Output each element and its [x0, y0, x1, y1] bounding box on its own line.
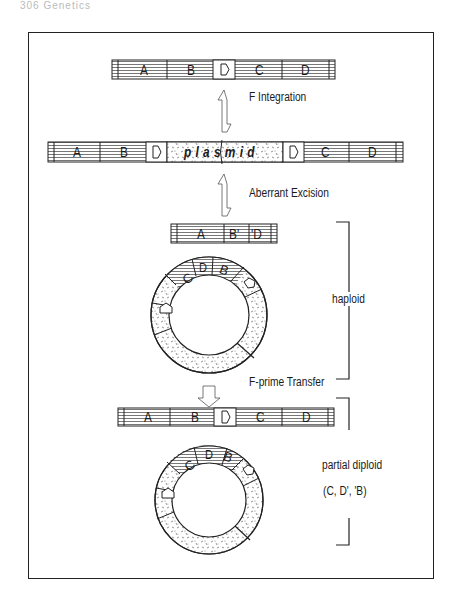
segment-label-a: A — [144, 409, 152, 425]
segment-label-a: A — [197, 226, 205, 242]
segment-label-c: C — [321, 144, 330, 160]
segment-label-c: C — [255, 62, 264, 78]
ring-label-d: D — [199, 260, 207, 275]
segment-label-b: B — [187, 62, 195, 78]
segment-label-c: C — [256, 409, 265, 425]
step-label-transfer: F-prime Transfer — [249, 375, 324, 389]
state-label-partial-diploid: partial diploid — [322, 458, 382, 472]
segment-label-b: B — [191, 409, 199, 425]
plasmid-label: plasmid — [184, 144, 259, 160]
segment-label-d: D — [301, 62, 310, 78]
segment-label-a: A — [73, 144, 81, 160]
ring-label-d: D — [205, 447, 213, 462]
conjugation-diagram — [0, 0, 456, 612]
integration-arrow-icon — [218, 90, 231, 132]
state-label-haploid: haploid — [332, 292, 365, 306]
segment-label-b-prime: B' — [229, 226, 239, 242]
state-label-partial-diploid-detail: (C, D', 'B) — [323, 484, 367, 498]
step-label-excision: Aberrant Excision — [249, 186, 329, 200]
segment-label-d-prime: 'D — [251, 226, 262, 242]
segment-label-a: A — [140, 62, 148, 78]
segment-label-b: B — [120, 144, 128, 160]
segment-label-d: D — [302, 409, 311, 425]
excision-arrow-icon — [218, 174, 231, 216]
transfer-arrow-icon — [198, 386, 220, 407]
segment-label-d: D — [368, 144, 377, 160]
fprime-ring-haploid — [151, 257, 267, 373]
step-label-integration: F Integration — [249, 90, 306, 104]
